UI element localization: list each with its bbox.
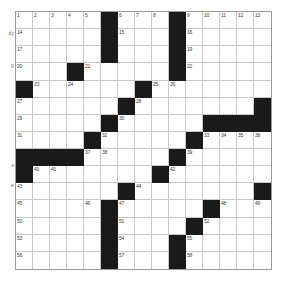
grid-cell[interactable] xyxy=(101,81,118,98)
grid-cell[interactable]: 24 xyxy=(67,81,84,98)
grid-cell[interactable] xyxy=(169,115,186,132)
grid-cell[interactable]: 56 xyxy=(16,252,33,269)
grid-cell[interactable] xyxy=(186,183,203,200)
grid-cell[interactable] xyxy=(203,29,220,46)
grid-cell[interactable]: 36 xyxy=(254,132,271,149)
grid-cell[interactable]: 35 xyxy=(237,132,254,149)
grid-cell[interactable]: 41 xyxy=(50,166,67,183)
grid-cell[interactable] xyxy=(67,218,84,235)
grid-cell[interactable] xyxy=(135,252,152,269)
grid-cell[interactable]: 4 xyxy=(67,12,84,29)
grid-cell[interactable] xyxy=(169,218,186,235)
grid-cell[interactable] xyxy=(186,200,203,217)
grid-cell[interactable]: 39 xyxy=(186,149,203,166)
grid-cell[interactable]: 32 xyxy=(101,132,118,149)
grid-cell[interactable]: 31 xyxy=(16,132,33,149)
grid-cell[interactable]: 50 xyxy=(16,218,33,235)
grid-cell[interactable]: 5 xyxy=(84,12,101,29)
grid-cell[interactable] xyxy=(33,218,50,235)
grid-cell[interactable]: 26 xyxy=(169,81,186,98)
grid-cell[interactable]: 13 xyxy=(254,12,271,29)
grid-cell[interactable]: 14 xyxy=(16,29,33,46)
grid-cell[interactable] xyxy=(67,46,84,63)
grid-cell[interactable] xyxy=(237,149,254,166)
grid-cell[interactable]: 40 xyxy=(33,166,50,183)
grid-cell[interactable] xyxy=(220,29,237,46)
grid-cell[interactable]: 12 xyxy=(237,12,254,29)
grid-cell[interactable] xyxy=(237,166,254,183)
grid-cell[interactable]: 3 xyxy=(50,12,67,29)
grid-cell[interactable] xyxy=(237,218,254,235)
grid-cell[interactable] xyxy=(203,183,220,200)
grid-cell[interactable] xyxy=(67,98,84,115)
grid-cell[interactable] xyxy=(169,183,186,200)
grid-cell[interactable]: 51 xyxy=(118,218,135,235)
grid-cell[interactable] xyxy=(118,166,135,183)
grid-cell[interactable] xyxy=(50,115,67,132)
grid-cell[interactable] xyxy=(101,166,118,183)
grid-cell[interactable] xyxy=(135,235,152,252)
grid-cell[interactable] xyxy=(50,29,67,46)
grid-cell[interactable] xyxy=(67,166,84,183)
grid-cell[interactable] xyxy=(237,29,254,46)
grid-cell[interactable] xyxy=(237,252,254,269)
grid-cell[interactable] xyxy=(33,183,50,200)
grid-cell[interactable]: 23 xyxy=(33,81,50,98)
grid-cell[interactable]: 30 xyxy=(118,115,135,132)
grid-cell[interactable]: 53 xyxy=(16,235,33,252)
grid-cell[interactable] xyxy=(33,200,50,217)
grid-cell[interactable]: 25 xyxy=(152,81,169,98)
grid-cell[interactable] xyxy=(84,183,101,200)
grid-cell[interactable]: 52 xyxy=(203,218,220,235)
grid-cell[interactable] xyxy=(152,200,169,217)
grid-cell[interactable] xyxy=(220,63,237,80)
grid-cell[interactable] xyxy=(135,166,152,183)
grid-cell[interactable] xyxy=(118,46,135,63)
grid-cell[interactable]: 37 xyxy=(84,149,101,166)
grid-cell[interactable] xyxy=(220,252,237,269)
grid-cell[interactable] xyxy=(169,132,186,149)
grid-cell[interactable] xyxy=(33,98,50,115)
grid-cell[interactable] xyxy=(84,98,101,115)
grid-cell[interactable] xyxy=(50,98,67,115)
grid-cell[interactable]: 43 xyxy=(16,183,33,200)
grid-cell[interactable] xyxy=(50,81,67,98)
grid-cell[interactable]: 6 xyxy=(118,12,135,29)
grid-cell[interactable] xyxy=(50,200,67,217)
grid-cell[interactable] xyxy=(152,115,169,132)
grid-cell[interactable]: 7 xyxy=(135,12,152,29)
grid-cell[interactable] xyxy=(220,46,237,63)
grid-cell[interactable]: 55 xyxy=(186,235,203,252)
grid-cell[interactable] xyxy=(203,166,220,183)
grid-cell[interactable]: 17 xyxy=(16,46,33,63)
grid-cell[interactable] xyxy=(152,149,169,166)
grid-cell[interactable] xyxy=(237,200,254,217)
grid-cell[interactable] xyxy=(135,63,152,80)
grid-cell[interactable]: 11 xyxy=(220,12,237,29)
grid-cell[interactable]: 16 xyxy=(186,29,203,46)
grid-cell[interactable] xyxy=(220,166,237,183)
grid-cell[interactable] xyxy=(152,46,169,63)
grid-cell[interactable]: 2 xyxy=(33,12,50,29)
grid-cell[interactable] xyxy=(152,29,169,46)
grid-cell[interactable] xyxy=(50,183,67,200)
grid-cell[interactable] xyxy=(33,235,50,252)
grid-cell[interactable]: 42 xyxy=(169,166,186,183)
grid-cell[interactable] xyxy=(220,98,237,115)
grid-cell[interactable] xyxy=(254,46,271,63)
grid-cell[interactable]: 54 xyxy=(118,235,135,252)
grid-cell[interactable] xyxy=(237,81,254,98)
grid-cell[interactable] xyxy=(50,132,67,149)
grid-cell[interactable] xyxy=(84,252,101,269)
grid-cell[interactable]: 20 xyxy=(16,63,33,80)
grid-cell[interactable]: 28 xyxy=(135,98,152,115)
grid-cell[interactable] xyxy=(186,81,203,98)
grid-cell[interactable]: 22 xyxy=(186,63,203,80)
grid-cell[interactable] xyxy=(203,235,220,252)
grid-cell[interactable] xyxy=(254,29,271,46)
grid-cell[interactable]: 38 xyxy=(101,149,118,166)
grid-cell[interactable] xyxy=(152,132,169,149)
grid-cell[interactable] xyxy=(101,98,118,115)
grid-cell[interactable] xyxy=(67,132,84,149)
grid-cell[interactable] xyxy=(101,63,118,80)
